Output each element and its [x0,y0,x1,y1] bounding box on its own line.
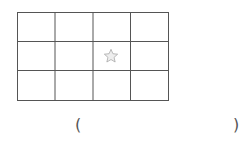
answer-blank[interactable] [85,115,230,135]
close-paren: ) [233,115,239,134]
grid [17,12,168,100]
star-icon [103,48,119,64]
open-paren: ( [75,115,81,134]
grid-lines [17,12,169,101]
